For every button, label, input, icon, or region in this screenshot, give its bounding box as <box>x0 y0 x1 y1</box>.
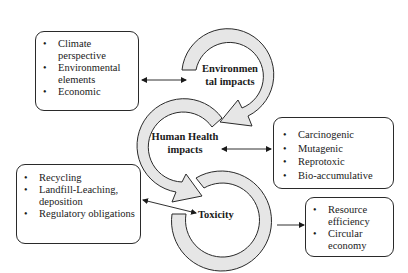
waste-management-connector-arrow <box>143 200 196 213</box>
list-item: Economic <box>38 86 134 98</box>
list-item: Recycling <box>19 172 136 184</box>
human-health-label-line1: Human Health <box>145 130 225 143</box>
environmental-label-line1: Environmen <box>190 62 270 75</box>
outcomes-box: Resource efficiency Circular economy <box>305 197 394 257</box>
list-item: Regulatory obligations <box>19 208 136 220</box>
list-item: Reprotoxic <box>278 155 389 169</box>
environmental-impacts-label: Environmen tal impacts <box>190 62 270 88</box>
toxicity-label: Toxicity <box>198 208 248 221</box>
waste-management-box: Recycling Landfill-Leaching, deposition … <box>16 164 141 244</box>
list-item: Resource efficiency <box>308 204 389 228</box>
list-item: Environmental elements <box>38 62 134 86</box>
list-item: Mutagenic <box>278 142 389 156</box>
health-effects-box: Carcinogenic Mutagenic Reprotoxic Bio-ac… <box>273 117 394 189</box>
environmental-factors-box: Climate perspective Environmental elemen… <box>35 31 139 111</box>
list-item: Carcinogenic <box>278 128 389 142</box>
waste-management-list: Recycling Landfill-Leaching, deposition … <box>19 172 136 220</box>
list-item: Climate perspective <box>38 38 134 62</box>
human-health-label-line2: impacts <box>145 143 225 156</box>
outcomes-list: Resource efficiency Circular economy <box>308 204 389 252</box>
list-item: Circular economy <box>308 228 389 252</box>
human-health-impacts-label: Human Health impacts <box>145 130 225 156</box>
list-item: Bio-accumulative <box>278 169 389 183</box>
environmental-factors-list: Climate perspective Environmental elemen… <box>38 38 134 98</box>
environmental-label-line2: tal impacts <box>190 75 270 88</box>
health-effects-list: Carcinogenic Mutagenic Reprotoxic Bio-ac… <box>278 128 389 182</box>
list-item: Landfill-Leaching, deposition <box>19 184 136 208</box>
toxicity-label-line1: Toxicity <box>198 208 248 221</box>
